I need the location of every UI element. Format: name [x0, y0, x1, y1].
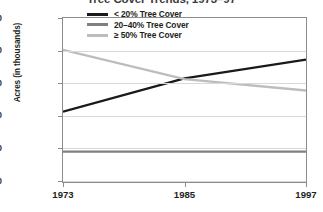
- x-axis-tick-label: 1985: [155, 190, 215, 200]
- legend-item: ≥ 50% Tree Cover: [87, 30, 242, 41]
- y-axis-tick-label: 600: [0, 79, 2, 87]
- y-axis-tick-label: 0: [0, 177, 2, 185]
- y-axis-tick-label: 800: [0, 46, 2, 54]
- gridline: [63, 51, 306, 52]
- chart-legend: < 20% Tree Cover20–40% Tree Cover≥ 50% T…: [87, 9, 242, 41]
- series-line: [63, 60, 306, 112]
- y-axis-title: Acres (in thousands): [13, 8, 22, 118]
- y-axis-tick-label: 1000: [0, 14, 2, 22]
- legend-color-swatch: [87, 13, 108, 16]
- series-lines: [63, 18, 306, 181]
- x-axis-tick-mark: [306, 182, 307, 187]
- y-axis-tick-label: 400: [0, 111, 2, 119]
- plot-inner: [63, 18, 306, 182]
- legend-item-label: ≥ 50% Tree Cover: [114, 30, 182, 40]
- x-axis-tick-mark: [63, 182, 64, 187]
- legend-item: < 20% Tree Cover: [87, 9, 242, 20]
- legend-color-swatch: [87, 23, 108, 26]
- gridline: [63, 83, 306, 84]
- y-axis-tick-label: 200: [0, 144, 2, 152]
- legend-item-label: 20–40% Tree Cover: [114, 20, 189, 30]
- gridline: [63, 148, 306, 149]
- x-axis-tick-label: 1973: [33, 190, 93, 200]
- series-line: [63, 50, 306, 91]
- chart-title: Tree Cover Trends, 1973–97: [0, 0, 323, 6]
- x-axis-tick-mark: [185, 182, 186, 187]
- chart-figure: Tree Cover Trends, 1973–97 Acres (in tho…: [0, 0, 323, 212]
- legend-item: 20–40% Tree Cover: [87, 20, 242, 31]
- legend-item-label: < 20% Tree Cover: [114, 9, 182, 19]
- plot-area: [62, 17, 307, 182]
- gridline: [63, 116, 306, 117]
- legend-color-swatch: [87, 34, 108, 37]
- x-axis-tick-label: 1997: [276, 190, 323, 200]
